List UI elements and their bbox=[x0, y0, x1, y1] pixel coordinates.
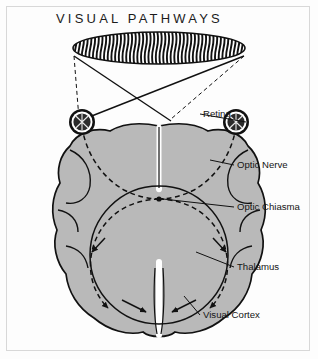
figure-title: VISUAL PATHWAYS bbox=[56, 11, 223, 26]
left-eye bbox=[69, 109, 95, 135]
visual-pathways-diagram: VISUAL PATHWAYS bbox=[0, 0, 318, 359]
brain bbox=[53, 124, 266, 337]
label-thalamus: Thalamus bbox=[237, 261, 279, 272]
visual-pathways-figure: VISUAL PATHWAYS bbox=[0, 0, 318, 359]
label-optic-chiasma: Optic Chiasma bbox=[237, 201, 301, 212]
field-line-left-uncrossed bbox=[74, 56, 79, 119]
label-optic-nerve: Optic Nerve bbox=[237, 159, 288, 170]
visual-field-ellipse bbox=[73, 30, 245, 66]
label-visual-cortex: Visual Cortex bbox=[203, 309, 260, 320]
label-retina: Retina bbox=[203, 108, 231, 119]
